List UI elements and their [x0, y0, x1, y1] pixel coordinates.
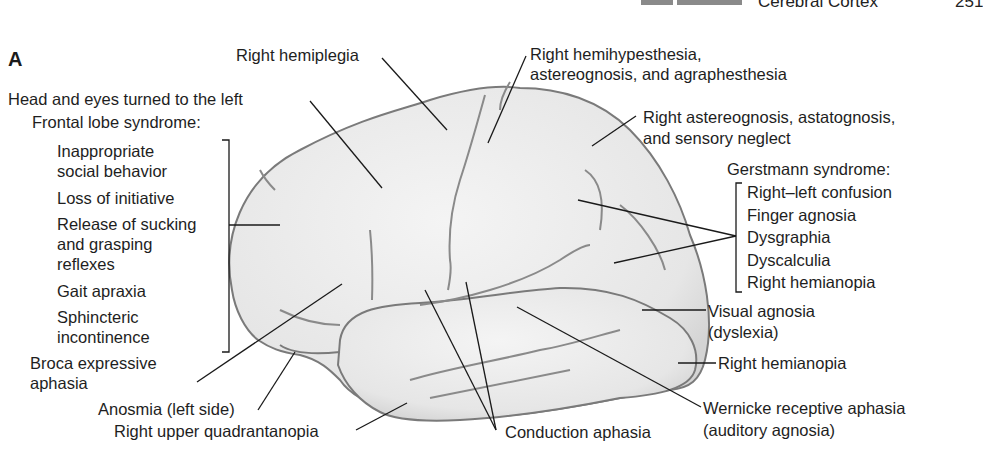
label-visual-agnosia-line2: (dyslexia): [708, 322, 779, 342]
frontal-item: incontinence: [57, 327, 150, 347]
gerstmann-item: Right hemianopia: [747, 272, 875, 292]
frontal-item: and grasping: [57, 234, 152, 254]
frontal-item: reflexes: [57, 254, 115, 274]
label-astereognosis-line1: Right astereognosis, astatognosis,: [643, 107, 895, 127]
frontal-item: Sphincteric: [57, 307, 139, 327]
gerstmann-item: Dyscalculia: [747, 250, 830, 270]
label-anosmia: Anosmia (left side): [98, 399, 235, 419]
label-head-eyes: Head and eyes turned to the left: [8, 89, 243, 109]
label-hemihypesthesia-line2: astereognosis, and agraphesthesia: [530, 64, 787, 84]
gerstmann-bracket: [736, 183, 742, 292]
label-astereognosis-line2: and sensory neglect: [643, 128, 791, 148]
frontal-item: Inappropriate: [57, 141, 154, 161]
frontal-item: Gait apraxia: [57, 281, 146, 301]
frontal-item: social behavior: [57, 161, 167, 181]
gerstmann-item: Finger agnosia: [747, 205, 856, 225]
label-right-hemiplegia: Right hemiplegia: [236, 45, 359, 65]
frontal-item: Release of sucking: [57, 214, 196, 234]
label-visual-agnosia-line1: Visual agnosia: [708, 301, 815, 321]
label-quadrantanopia: Right upper quadrantanopia: [114, 421, 319, 441]
label-wernicke-line1: Wernicke receptive aphasia: [703, 398, 905, 418]
frontal-bracket: [222, 140, 229, 352]
frontal-item: Loss of initiative: [57, 188, 174, 208]
label-conduction-aphasia: Conduction aphasia: [505, 422, 651, 442]
gerstmann-title: Gerstmann syndrome:: [727, 159, 890, 179]
label-broca-line2: aphasia: [30, 373, 88, 393]
label-hemihypesthesia-line1: Right hemihypesthesia,: [530, 44, 702, 64]
frontal-lobe-title: Frontal lobe syndrome:: [32, 112, 201, 132]
label-wernicke-line2: (auditory agnosia): [703, 420, 835, 440]
gerstmann-item: Dysgraphia: [747, 227, 830, 247]
label-broca-line1: Broca expressive: [30, 353, 157, 373]
gerstmann-item: Right–left confusion: [747, 182, 892, 202]
label-right-hemianopia: Right hemianopia: [718, 353, 846, 373]
